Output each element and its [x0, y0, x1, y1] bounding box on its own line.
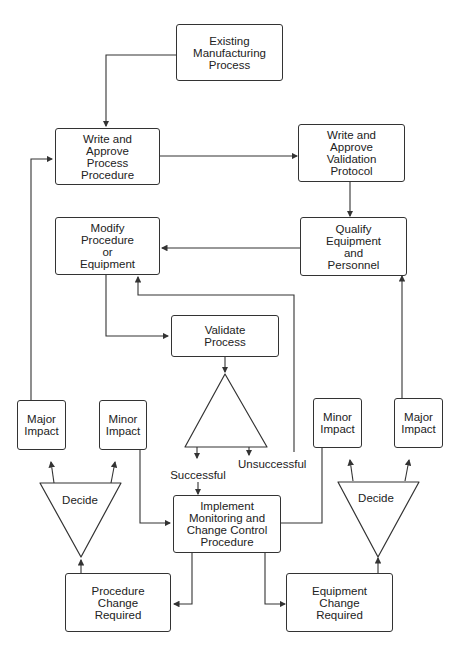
validate-decision-triangle: [185, 374, 267, 447]
minor-impact-right-box: Minor Impact: [313, 398, 362, 448]
procedure-change-box: Procedure Change Required: [65, 573, 171, 632]
major-impact-right-box: Major Impact: [394, 398, 443, 448]
decide-right-label: Decide: [352, 492, 400, 504]
minor-impact-left-box: Minor Impact: [99, 400, 147, 450]
modify-box: Modify Procedure or Equipment: [55, 217, 160, 275]
major-impact-left-box: Major Impact: [17, 400, 66, 450]
decide-left-label: Decide: [56, 494, 104, 506]
equipment-change-box: Equipment Change Required: [286, 573, 393, 632]
qualify-box: Qualify Equipment and Personnel: [300, 217, 407, 276]
successful-label: Successful: [168, 469, 228, 481]
existing-process-box: Existing Manufacturing Process: [176, 24, 283, 81]
validate-box: Validate Process: [171, 315, 279, 357]
implement-box: Implement Monitoring and Change Control …: [173, 495, 281, 553]
unsuccessful-label: Unsuccessful: [238, 458, 306, 470]
write-protocol-box: Write and Approve Validation Protocol: [298, 124, 405, 182]
write-procedure-box: Write and Approve Process Procedure: [55, 128, 160, 185]
